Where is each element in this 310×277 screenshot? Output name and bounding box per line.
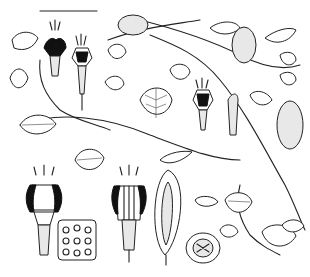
fruit-top [118,15,148,35]
illustration-svg [0,0,310,277]
fruit-longitudinal-section [155,170,181,265]
fruit-cross-section [186,233,220,263]
botanical-illustration [0,0,310,277]
flower-center [193,78,213,130]
flower-upper-left-2 [72,34,92,110]
flower-upper-left-1 [44,20,66,76]
flower-dissection-left [26,165,62,255]
fruit-right [277,101,303,149]
fruit-upper-right [232,27,256,63]
flower-dissection-center [112,165,146,262]
ovary-cross-section [58,220,96,260]
flower-bud [228,94,238,135]
